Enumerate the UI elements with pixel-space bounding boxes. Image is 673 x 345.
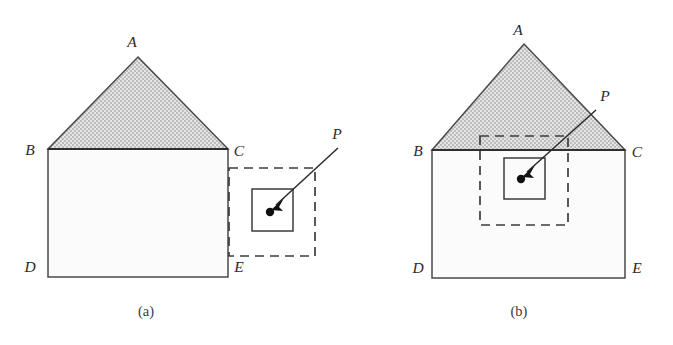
panel-b-label-B: B	[413, 142, 423, 159]
panel-a: A B C D E P (a)	[23, 33, 342, 320]
panel-a-point-p-dot	[266, 208, 274, 216]
panel-b-point-p-dot	[517, 175, 525, 183]
panel-b-label-E: E	[631, 259, 642, 276]
panel-a-label-B: B	[25, 141, 35, 158]
panel-a-caption: (a)	[138, 303, 154, 320]
geometry-diagram-canvas: A B C D E P (a) A B C D E P (b)	[0, 0, 673, 345]
panel-b-label-A: A	[512, 21, 523, 38]
panel-b-wall-rect	[432, 150, 625, 278]
panel-a-label-A: A	[126, 33, 137, 50]
figure-container: A B C D E P (a) A B C D E P (b)	[0, 0, 673, 345]
panel-a-label-P: P	[331, 125, 342, 142]
panel-b-roof-triangle	[432, 44, 625, 150]
panel-a-label-D: D	[23, 258, 35, 275]
panel-b-label-P: P	[599, 87, 610, 104]
panel-a-roof-triangle	[48, 57, 228, 149]
panel-a-wall-rect	[48, 149, 228, 277]
panel-b-label-C: C	[632, 143, 643, 160]
panel-a-leader-line	[276, 148, 338, 205]
panel-b: A B C D E P (b)	[411, 21, 642, 320]
panel-b-caption: (b)	[511, 303, 528, 320]
panel-b-label-D: D	[411, 259, 423, 276]
panel-a-label-E: E	[233, 258, 244, 275]
panel-a-label-C: C	[234, 142, 245, 159]
